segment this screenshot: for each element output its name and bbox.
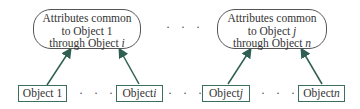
ellipsis-2: · · · <box>168 86 206 101</box>
arrow-objectj-to-bubble2 <box>228 50 250 84</box>
ellipsis-top: · · · <box>166 20 204 35</box>
attributes-bubble-2: Attributes common to Object j through Ob… <box>217 9 327 49</box>
bubble-line: Attributes common <box>218 12 326 25</box>
bubble-line: through Object n <box>218 37 326 50</box>
object-1-box: Object 1 <box>18 85 67 102</box>
bubble-line: through Object i <box>34 37 140 50</box>
object-n-box: Objectn <box>298 85 345 102</box>
arrow-object1-to-bubble1 <box>47 50 70 85</box>
ellipsis-3: · · · <box>261 86 299 101</box>
object-i-box: Objecti <box>116 85 163 102</box>
object-j-box: Objectj <box>202 85 250 102</box>
bubble-line: to Object j <box>218 25 326 38</box>
ellipsis-1: · · · <box>79 86 117 101</box>
arrow-objecti-to-bubble1 <box>120 50 139 84</box>
bubble-line: to Object 1 <box>34 25 140 38</box>
arrow-objectn-to-bubble2 <box>302 50 322 84</box>
attributes-bubble-1: Attributes common to Object 1 through Ob… <box>33 9 141 49</box>
bubble-line: Attributes common <box>34 12 140 25</box>
